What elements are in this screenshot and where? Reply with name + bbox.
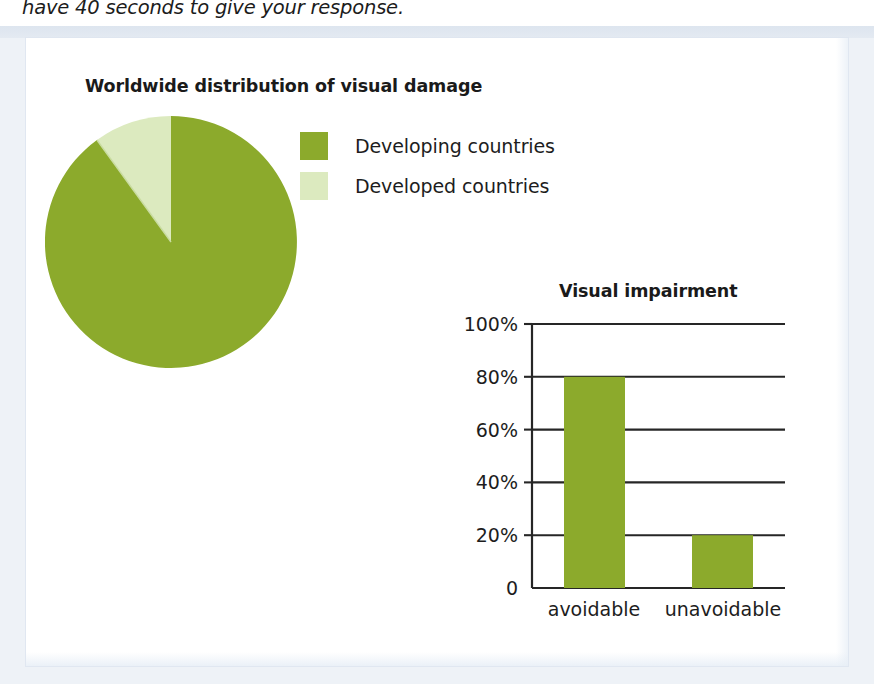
y-tick-label-80: 80% <box>476 366 518 388</box>
bar-chart-svg: 100% 80% 60% 40% 20% 0 avoidable unavoid… <box>440 310 800 630</box>
bar-avoidable <box>564 377 625 588</box>
pie-chart-svg <box>45 116 297 368</box>
pie-chart <box>45 116 297 368</box>
y-tick-label-100: 100% <box>464 313 518 335</box>
x-category-label-avoidable: avoidable <box>548 598 641 620</box>
legend-label-developed: Developed countries <box>355 175 549 197</box>
bar-chart-title: Visual impairment <box>559 281 737 301</box>
y-tick-label-20: 20% <box>476 524 518 546</box>
bar-unavoidable <box>692 535 753 588</box>
panel-right-shadow <box>836 38 848 666</box>
legend-swatch-developing <box>300 132 328 160</box>
y-tick-label-40: 40% <box>476 471 518 493</box>
y-tick-label-60: 60% <box>476 419 518 441</box>
pie-chart-legend: Developing countries Developed countries <box>300 126 555 206</box>
bar-chart-y-ticks <box>524 324 532 535</box>
panel-bottom-shadow <box>26 652 848 666</box>
y-tick-label-0: 0 <box>506 577 518 599</box>
legend-label-developing: Developing countries <box>355 135 555 157</box>
legend-item-developing: Developing countries <box>300 126 555 166</box>
page-header-text: have 40 seconds to give your response. <box>22 0 404 19</box>
legend-swatch-developed <box>300 172 328 200</box>
legend-item-developed: Developed countries <box>300 166 555 206</box>
pie-chart-title: Worldwide distribution of visual damage <box>85 76 482 96</box>
bar-chart: 100% 80% 60% 40% 20% 0 avoidable unavoid… <box>440 310 800 630</box>
x-category-label-unavoidable: unavoidable <box>665 598 782 620</box>
